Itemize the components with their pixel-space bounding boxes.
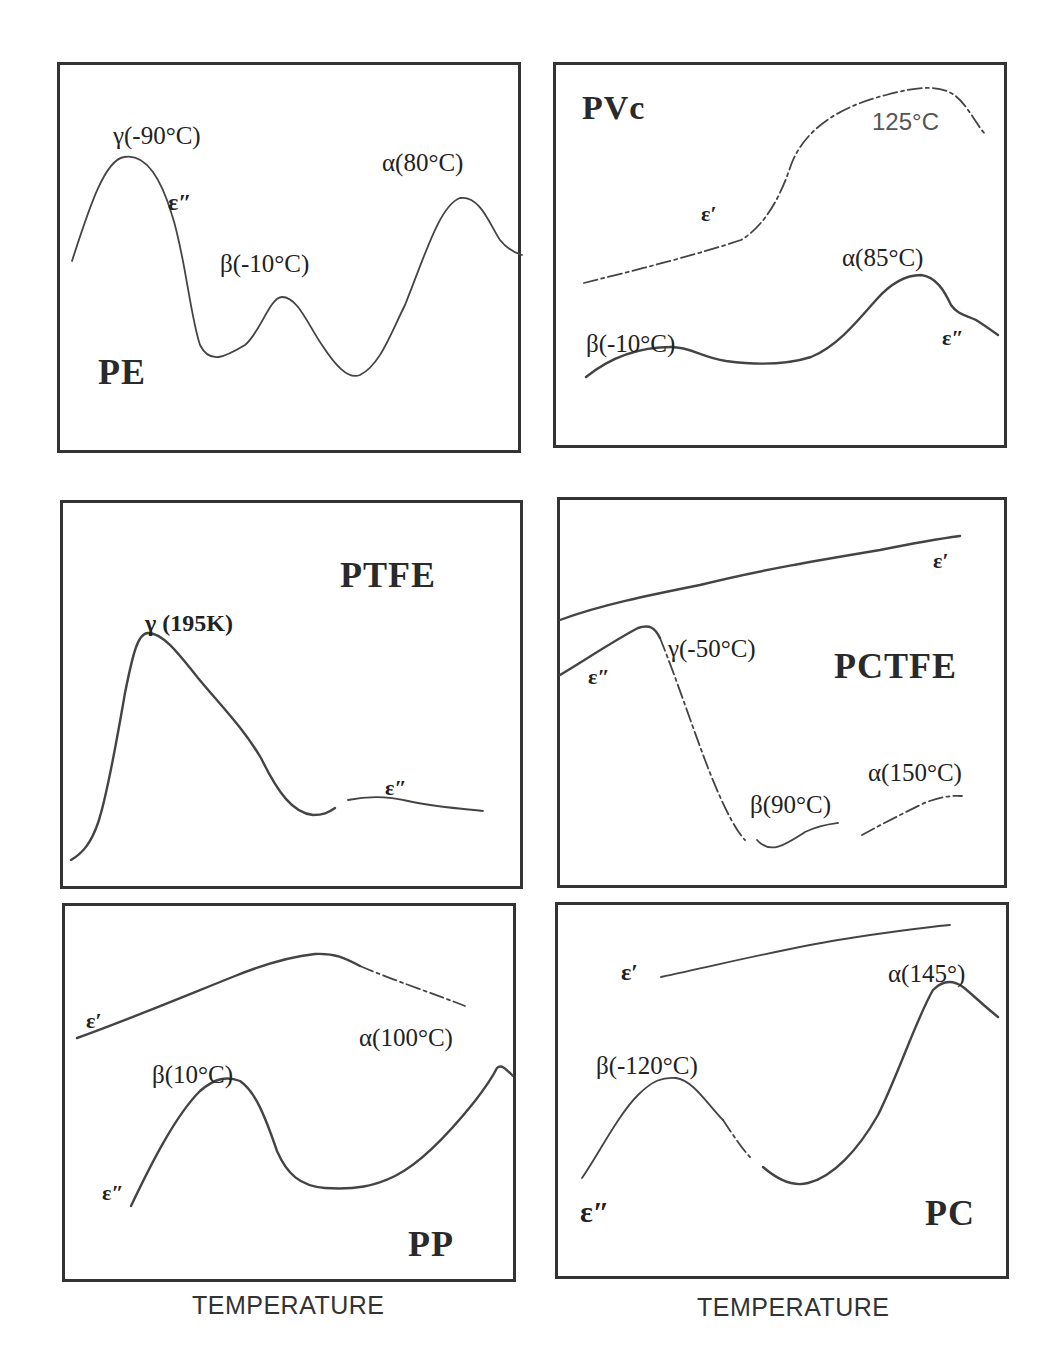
pctfe-beta-label: β(90°C) — [750, 792, 831, 817]
pp-eps1-label: ε′ — [86, 1010, 102, 1032]
pe-eps2-label: ε″ — [168, 190, 192, 214]
ptfe-eps2-label: ε″ — [385, 777, 407, 799]
pvc-eps1-peak-label: 125°C — [872, 110, 939, 134]
pctfe-eps2-label: ε″ — [588, 666, 610, 688]
pctfe-eps2-curve — [560, 626, 660, 675]
pvc-alpha-label: α(85°C) — [842, 245, 923, 270]
pp-eps1-curve — [77, 954, 360, 1038]
panel-pvc: PVc 125°C ε′ α(85°C) β(-10°C) ε″ — [553, 62, 1007, 448]
pc-title: PC — [925, 1195, 975, 1231]
ptfe-title: PTFE — [340, 557, 436, 593]
pc-beta-label: β(-120°C) — [596, 1053, 698, 1078]
pctfe-eps1-label: ε′ — [933, 550, 949, 572]
panel-pctfe: ε′ ε″ γ(-50°C) PCTFE β(90°C) α(150°C) — [557, 497, 1007, 888]
pvc-beta-label: β(-10°C) — [586, 331, 675, 356]
pvc-eps2-curve — [586, 275, 998, 377]
panel-pe: γ(-90°C) ε″ β(-10°C) α(80°C) PE — [57, 62, 521, 453]
ptfe-eps2-curve — [63, 503, 526, 892]
pe-title: PE — [98, 354, 146, 390]
pc-eps2-rise — [763, 982, 998, 1184]
pe-beta-label: β(-10°C) — [220, 251, 309, 276]
pp-beta-label: β(10°C) — [152, 1062, 233, 1087]
pctfe-eps1-curve — [560, 536, 960, 620]
panel-pp: ε′ α(100°C) β(10°C) ε″ PP — [62, 903, 516, 1282]
pc-eps2-curve — [582, 1078, 723, 1178]
panel-pc: ε′ α(145°) β(-120°C) ε″ PC — [555, 902, 1009, 1279]
pc-eps2-label: ε″ — [580, 1197, 609, 1227]
pp-alpha-label: α(100°C) — [359, 1025, 453, 1050]
pp-eps2-label: ε″ — [102, 1182, 124, 1204]
panel-ptfe: γ (195K) PTFE ε″ — [60, 500, 523, 889]
pctfe-beta-segment — [757, 823, 838, 848]
pc-eps2-gap — [723, 1120, 750, 1157]
pvc-eps1-label: ε′ — [701, 203, 717, 225]
pc-eps1-label: ε′ — [621, 960, 638, 984]
pp-eps1-tail — [360, 966, 465, 1006]
pctfe-alpha-label: α(150°C) — [868, 760, 962, 785]
x-axis-label-right: TEMPERATURE — [697, 1293, 890, 1322]
ptfe-gamma-label: γ (195K) — [145, 611, 233, 635]
pe-gamma-label: γ(-90°C) — [113, 123, 201, 148]
pvc-title: PVc — [582, 91, 645, 125]
pctfe-alpha-segment — [862, 796, 962, 835]
pc-alpha-label: α(145°) — [888, 961, 965, 986]
pe-alpha-label: α(80°C) — [382, 150, 463, 175]
x-axis-label-left: TEMPERATURE — [192, 1291, 385, 1320]
pvc-eps2-label: ε″ — [942, 327, 964, 349]
pctfe-eps2-drop — [660, 638, 745, 840]
pp-title: PP — [408, 1226, 454, 1262]
pctfe-gamma-label: γ(-50°C) — [668, 636, 756, 661]
pctfe-title: PCTFE — [834, 648, 957, 684]
